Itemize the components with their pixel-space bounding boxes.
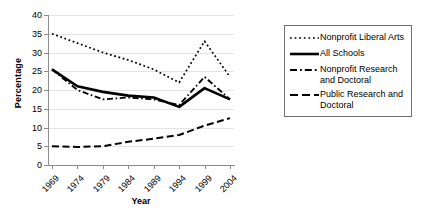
legend-item-nonprofit-research-and-doctoral: Nonprofit Research and Doctoral [290,64,406,85]
y-axis-title: Percentage [13,43,23,123]
x-axis-title: Year [48,196,234,206]
series-line [52,34,230,83]
series-lines [48,15,234,166]
y-tick-label: 20 [32,85,42,95]
series-line [52,118,230,147]
legend-item-nonprofit-liberal-arts: Nonprofit Liberal Arts [290,32,406,44]
legend-label: All Schools [320,48,365,59]
legend-swatch-dotted-icon [290,32,320,44]
y-tick-label: 0 [37,160,42,170]
legend-label: Nonprofit Research and Doctoral [320,64,406,85]
legend-swatch-dash-dot-icon [290,64,320,76]
series-line [52,69,230,107]
y-tick-label: 5 [37,141,42,151]
chart-figure: Percentage 0510152025303540 196919741979… [0,0,421,218]
legend-swatch-solid-icon [290,48,320,60]
legend-label: Public Research and Doctoral [320,89,406,110]
y-tick-label: 10 [32,123,42,133]
chart-legend: Nonprofit Liberal Arts All Schools Nonpr… [284,25,412,117]
legend-item-public-research-and-doctoral: Public Research and Doctoral [290,89,406,110]
y-tick-label: 30 [32,48,42,58]
y-tick-label: 25 [32,66,42,76]
plot-area: 0510152025303540 19691974197919841989199… [48,15,234,165]
legend-swatch-dashed-icon [290,89,320,101]
y-tick-label: 15 [32,104,42,114]
y-tick-label: 40 [32,10,42,20]
legend-item-all-schools: All Schools [290,48,406,60]
y-tick-label: 35 [32,29,42,39]
legend-label: Nonprofit Liberal Arts [320,32,404,43]
